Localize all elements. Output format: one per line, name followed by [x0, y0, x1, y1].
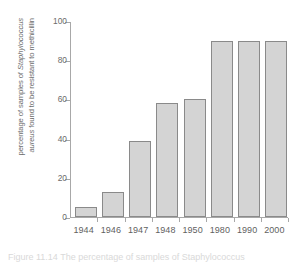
- figure-caption: Figure 11.14 The percentage of samples o…: [8, 251, 288, 263]
- bar: [211, 41, 233, 217]
- x-axis-tick-mark: [288, 218, 289, 222]
- y-axis-tick-label: 80: [58, 55, 67, 66]
- x-axis-label: 2000: [261, 224, 288, 237]
- y-axis-tick-label: 40: [58, 134, 67, 145]
- x-axis-tick-mark: [261, 218, 262, 222]
- y-axis-label-text-italic-1: Staphylococcus: [16, 18, 25, 70]
- x-axis-tick-mark: [152, 218, 153, 222]
- bar: [265, 41, 287, 217]
- x-axis-label: 1980: [206, 224, 233, 237]
- bar: [129, 141, 151, 217]
- y-axis-tick-label: 100: [53, 16, 67, 27]
- y-axis-label-line-2: aureus found to be resistant to methicil…: [25, 18, 38, 223]
- x-axis-tick-mark: [234, 218, 235, 222]
- x-axis-label: 1948: [152, 224, 179, 237]
- y-axis-tick-label: 20: [58, 173, 67, 184]
- x-axis-label: 1944: [70, 224, 97, 237]
- bar: [75, 207, 97, 217]
- x-axis-label: 1950: [179, 224, 206, 237]
- x-axis-label: 1946: [97, 224, 124, 237]
- bar: [156, 103, 178, 217]
- bar: [102, 192, 124, 217]
- bar: [184, 99, 206, 217]
- x-axis-label: 1990: [234, 224, 261, 237]
- x-axis-labels: 19441946194719481950198019902000: [70, 224, 288, 238]
- y-axis-label-text-plain-1: percentage of samples of: [16, 70, 25, 155]
- y-axis-label-text-plain-2: found to be resistant to methicillin: [27, 18, 36, 130]
- x-axis-tick-mark: [206, 218, 207, 222]
- y-axis-label-text-italic-2: aureus: [27, 130, 36, 153]
- y-axis-label: percentage of samples of Staphylococcus …: [14, 18, 46, 223]
- x-axis-tick-mark: [125, 218, 126, 222]
- y-axis-tick-label: 60: [58, 94, 67, 105]
- y-axis-line: [70, 22, 71, 218]
- y-axis-tick-label: 0: [62, 212, 67, 223]
- x-axis-tick-mark: [179, 218, 180, 222]
- bar: [238, 41, 260, 217]
- plot-area: 020406080100: [70, 22, 288, 218]
- x-axis-label: 1947: [125, 224, 152, 237]
- x-axis-tick-mark: [97, 218, 98, 222]
